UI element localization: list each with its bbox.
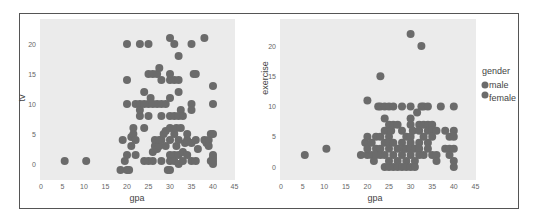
x-tick-label: 35: [428, 183, 436, 190]
data-point: [437, 103, 445, 111]
y-tick-label: 5: [272, 133, 276, 140]
panel-tv-x-ticks: 051015202530354045: [39, 183, 238, 190]
panel-exercise-y-label: exercise: [260, 61, 270, 95]
data-point: [157, 112, 165, 120]
data-point: [192, 136, 200, 144]
data-point: [209, 160, 217, 168]
data-point: [433, 127, 441, 135]
x-tick-label: 15: [102, 183, 110, 190]
data-point: [450, 145, 458, 153]
legend-title: gender: [482, 66, 510, 76]
data-point: [136, 40, 144, 48]
y-tick-label: 20: [28, 41, 36, 48]
data-point: [119, 136, 127, 144]
data-point: [166, 94, 174, 102]
panel-exercise-x-ticks: 051015202530354045: [279, 183, 479, 190]
data-point: [205, 142, 213, 150]
y-tick-label: 5: [32, 131, 36, 138]
data-point: [407, 103, 415, 111]
data-point: [424, 103, 432, 111]
data-point: [376, 72, 384, 80]
data-point: [132, 136, 140, 144]
data-point: [177, 124, 185, 132]
data-point: [132, 151, 140, 159]
data-point: [123, 40, 131, 48]
x-tick-label: 0: [39, 183, 43, 190]
x-tick-label: 40: [209, 183, 217, 190]
data-point: [363, 97, 371, 105]
data-point: [407, 30, 415, 38]
legend-female-marker-icon: [482, 92, 489, 99]
data-point: [175, 76, 183, 84]
data-point: [175, 52, 183, 60]
data-point: [433, 157, 441, 165]
x-tick-label: 45: [231, 183, 239, 190]
data-point: [61, 157, 69, 165]
data-point: [145, 112, 153, 120]
panel-tv-y-label: tv: [17, 94, 27, 102]
data-point: [188, 106, 196, 114]
x-tick-label: 35: [188, 183, 196, 190]
legend-item-female: female: [489, 93, 516, 103]
data-point: [209, 151, 217, 159]
data-point: [417, 42, 425, 50]
data-point: [145, 40, 153, 48]
data-point: [209, 130, 217, 138]
data-point: [140, 88, 148, 96]
x-tick-label: 25: [145, 183, 153, 190]
y-tick-label: 10: [28, 101, 36, 108]
data-point: [82, 157, 90, 165]
data-point: [125, 166, 133, 174]
data-point: [140, 124, 148, 132]
x-tick-label: 20: [364, 183, 372, 190]
panel-tv-x-label: gpa: [129, 193, 144, 203]
data-point: [175, 88, 183, 96]
x-tick-label: 40: [450, 183, 458, 190]
x-tick-label: 5: [301, 183, 305, 190]
data-point: [123, 151, 131, 159]
data-point: [192, 70, 200, 78]
data-point: [200, 34, 208, 42]
data-point: [411, 163, 419, 171]
data-point: [192, 157, 200, 165]
legend-male-marker-icon: [482, 82, 489, 89]
data-point: [209, 100, 217, 108]
x-tick-label: 10: [320, 183, 328, 190]
x-tick-label: 30: [407, 183, 415, 190]
data-point: [301, 151, 309, 159]
data-point: [155, 64, 163, 72]
x-tick-label: 30: [166, 183, 174, 190]
data-point: [149, 157, 157, 165]
panel-exercise-x-label: gpa: [367, 193, 382, 203]
data-point: [322, 145, 330, 153]
data-point: [123, 100, 131, 108]
data-point: [398, 103, 406, 111]
data-point: [170, 40, 178, 48]
data-point: [129, 124, 137, 132]
x-tick-label: 15: [342, 183, 350, 190]
data-point: [157, 157, 165, 165]
data-point: [194, 145, 202, 153]
y-tick-label: 15: [28, 71, 36, 78]
y-tick-label: 0: [32, 161, 36, 168]
x-tick-label: 45: [472, 183, 480, 190]
data-point: [166, 166, 174, 174]
data-point: [183, 130, 191, 138]
data-point: [209, 82, 217, 90]
x-tick-label: 20: [123, 183, 131, 190]
data-point: [450, 103, 458, 111]
data-point: [450, 163, 458, 171]
x-tick-label: 0: [279, 183, 283, 190]
data-point: [157, 76, 165, 84]
data-point: [450, 133, 458, 141]
y-tick-label: 20: [268, 43, 276, 50]
data-point: [389, 103, 397, 111]
scatter-plots: 051015202530354045 05101520 051015202530…: [0, 0, 536, 223]
data-point: [188, 40, 196, 48]
legend: gender male female: [482, 66, 517, 103]
y-tick-label: 0: [272, 164, 276, 171]
legend-item-male: male: [489, 80, 509, 90]
x-tick-label: 25: [385, 183, 393, 190]
x-tick-label: 10: [80, 183, 88, 190]
data-point: [123, 76, 131, 84]
